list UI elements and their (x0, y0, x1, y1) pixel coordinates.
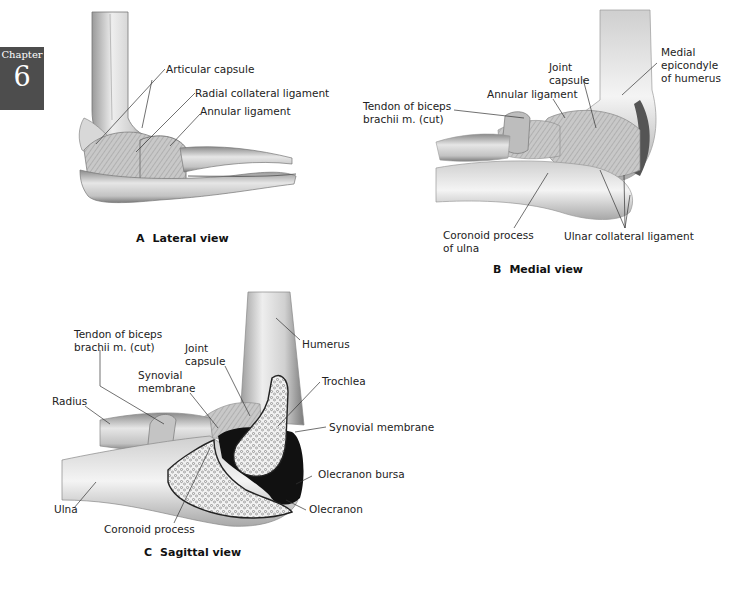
label-ulnar-collateral-ligament: Ulnar collateral ligament (564, 230, 694, 243)
panel-c-caption: CSagittal view (144, 546, 241, 559)
label-ulna: Ulna (54, 503, 78, 516)
label-annular-ligament-a: Annular ligament (200, 105, 291, 118)
panel-a-title: Lateral view (153, 232, 229, 245)
label-tendon-biceps-b-line1: Tendon of biceps (363, 100, 451, 113)
label-radial-collateral-ligament: Radial collateral ligament (195, 87, 329, 100)
label-joint-capsule-b-line2: capsule (549, 74, 589, 87)
panel-b-title: Medial view (509, 263, 583, 276)
label-olecranon-bursa: Olecranon bursa (318, 468, 405, 481)
label-radius: Radius (52, 395, 87, 408)
label-joint-capsule-c-line2: capsule (185, 355, 225, 368)
elbow-anatomy-illustration (0, 0, 739, 590)
label-medial-epicondyle-line2: epicondyle (661, 59, 718, 72)
label-coronoid-process-c: Coronoid process (104, 523, 195, 536)
label-synovial-membrane-c-left-line2: membrane (138, 382, 195, 395)
label-olecranon: Olecranon (309, 503, 363, 516)
label-coronoid-process-ulna-line2: of ulna (443, 242, 479, 255)
label-joint-capsule-c-line1: Joint (185, 342, 208, 355)
label-joint-capsule-b-line1: Joint (549, 61, 572, 74)
panel-b-caption: BMedial view (493, 263, 583, 276)
label-medial-epicondyle-line3: of humerus (661, 72, 721, 85)
label-tendon-biceps-c-line1: Tendon of biceps (74, 328, 162, 341)
panel-c-title: Sagittal view (160, 546, 241, 559)
panel-b-drawing (436, 10, 657, 228)
label-humerus: Humerus (302, 338, 350, 351)
label-tendon-biceps-c-line2: brachii m. (cut) (74, 341, 155, 354)
label-annular-ligament-b: Annular ligament (487, 88, 578, 101)
label-articular-capsule: Articular capsule (166, 63, 254, 76)
panel-b-letter: B (493, 263, 501, 276)
panel-c-letter: C (144, 546, 152, 559)
panel-a-letter: A (136, 232, 145, 245)
label-medial-epicondyle-line1: Medial (661, 46, 695, 59)
label-trochlea: Trochlea (322, 375, 366, 388)
panel-a-caption: ALateral view (136, 232, 229, 245)
label-coronoid-process-ulna-line1: Coronoid process (443, 229, 534, 242)
label-synovial-membrane-c-right: Synovial membrane (329, 421, 434, 434)
label-synovial-membrane-c-left-line1: Synovial (138, 369, 182, 382)
label-tendon-biceps-b-line2: brachii m. (cut) (363, 113, 444, 126)
